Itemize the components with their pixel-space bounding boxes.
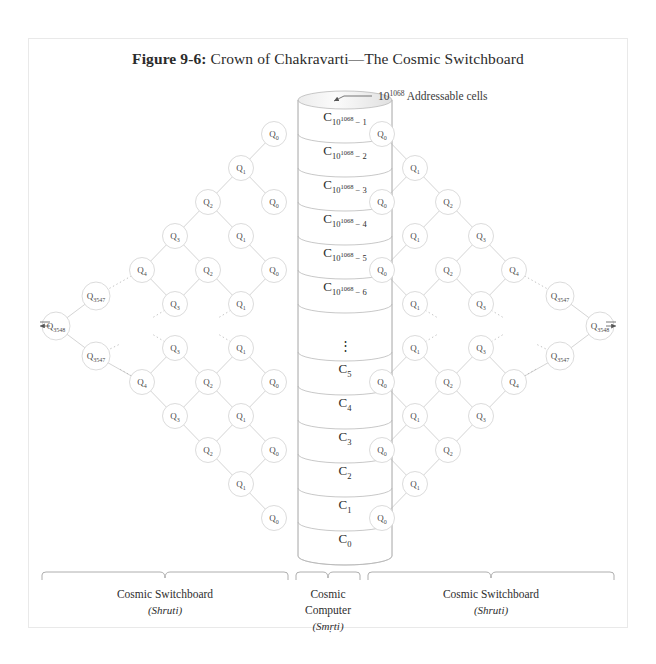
switchboard-node[interactable]: Q1	[229, 156, 254, 181]
switchboard-node[interactable]: Q1	[229, 336, 254, 361]
cylinder-cell-label: C5	[339, 361, 352, 379]
cylinder-cell-divider	[298, 168, 392, 177]
switchboard-node[interactable]: Q3	[469, 224, 494, 249]
switchboard-node[interactable]: Q0	[370, 258, 395, 283]
switchboard-node[interactable]: Q0	[370, 438, 395, 463]
cylinder-cell-label: C1	[339, 497, 352, 515]
switchboard-nodes-right: Q0Q1Q2Q0Q3Q1Q4Q2Q0Q3547Q3Q1Q3548Q3547Q3Q…	[370, 122, 615, 531]
switchboard-node[interactable]: Q3	[163, 336, 188, 361]
section-brace-sublabel: (Shruti)	[148, 604, 183, 617]
switchboard-node[interactable]: Q0	[370, 370, 395, 395]
switchboard-node[interactable]: Q2	[436, 438, 461, 463]
cosmic-switchboard-diagram: C101068 − 1C101068 − 2C101068 − 3C101068…	[0, 0, 656, 664]
section-brace	[42, 572, 288, 580]
cylinder-cell-label: C101068 − 2	[323, 143, 366, 161]
switchboard-node[interactable]: Q1	[403, 472, 428, 497]
section-brace-sublabel: (Shruti)	[474, 604, 509, 617]
cylinder-cell-label: C101068 − 3	[323, 177, 366, 195]
section-brace	[368, 572, 614, 580]
section-brace	[296, 572, 360, 580]
switchboard-edges-left	[56, 134, 274, 518]
cylinder-cell-divider	[298, 236, 392, 245]
cylinder-ellipsis: ⋮	[339, 338, 352, 353]
switchboard-node[interactable]: Q2	[196, 370, 221, 395]
switchboard-nodes-left: Q0Q1Q2Q0Q3Q1Q4Q2Q0Q3547Q3Q1Q3548Q3547Q3Q…	[42, 122, 287, 531]
section-brace-label-line2: Computer	[305, 604, 351, 617]
switchboard-node[interactable]: Q0	[262, 506, 287, 531]
switchboard-node[interactable]: Q0	[370, 190, 395, 215]
cylinder-cell-label: C101068 − 6	[323, 279, 366, 297]
cylinder-cell-label: C0	[339, 531, 352, 549]
switchboard-node[interactable]: Q3	[163, 224, 188, 249]
cylinder-cell-divider	[298, 304, 392, 313]
switchboard-node[interactable]: Q4	[130, 258, 155, 283]
switchboard-node[interactable]: Q4	[502, 370, 527, 395]
switchboard-node[interactable]: Q0	[262, 438, 287, 463]
switchboard-node[interactable]: Q1	[229, 472, 254, 497]
switchboard-node[interactable]: Q0	[370, 122, 395, 147]
section-brace-label: Cosmic	[310, 588, 345, 600]
switchboard-node[interactable]: Q1	[229, 404, 254, 429]
cylinder-cell-label: C4	[339, 395, 353, 413]
switchboard-node[interactable]: Q3547	[546, 342, 574, 370]
switchboard-edges-right	[382, 134, 600, 518]
switchboard-node[interactable]: Q3	[163, 404, 188, 429]
switchboard-continuation-left	[96, 270, 241, 382]
switchboard-node[interactable]: Q3	[469, 404, 494, 429]
switchboard-node[interactable]: Q1	[229, 292, 254, 317]
switchboard-node[interactable]: Q2	[436, 258, 461, 283]
switchboard-node[interactable]: Q4	[502, 258, 527, 283]
switchboard-node[interactable]: Q3	[469, 292, 494, 317]
annotation-label: 101068 Addressable cells	[378, 89, 488, 103]
switchboard-node[interactable]: Q2	[196, 258, 221, 283]
switchboard-node[interactable]: Q1	[403, 404, 428, 429]
switchboard-node[interactable]: Q3	[163, 292, 188, 317]
cylinder-cell-label: C101068 − 4	[323, 211, 367, 229]
section-braces: Cosmic Switchboard(Shruti)CosmicComputer…	[42, 572, 614, 633]
switchboard-node[interactable]: Q1	[229, 224, 254, 249]
switchboard-node[interactable]: Q0	[262, 122, 287, 147]
cylinder-cell-label: C3	[339, 429, 352, 447]
section-brace-label: Cosmic Switchboard	[117, 588, 213, 600]
figure-root: Figure 9-6: Crown of Chakravarti—The Cos…	[0, 0, 656, 664]
cylinder-cell-label: C2	[339, 463, 352, 481]
section-brace-label: Cosmic Switchboard	[443, 588, 539, 600]
cylinder-cell-label: C101068 − 5	[323, 245, 366, 263]
switchboard-node[interactable]: Q0	[262, 190, 287, 215]
cosmic-computer-cylinder: C101068 − 1C101068 − 2C101068 − 3C101068…	[298, 91, 392, 565]
switchboard-node[interactable]: Q3547	[82, 282, 110, 310]
switchboard-node[interactable]: Q3547	[546, 282, 574, 310]
switchboard-node[interactable]: Q2	[436, 190, 461, 215]
cylinder-cell-label: C101068 − 1	[323, 109, 366, 127]
switchboard-node[interactable]: Q0	[262, 258, 287, 283]
section-brace-sublabel: (Smṛti)	[312, 620, 344, 633]
switchboard-node[interactable]: Q1	[403, 224, 428, 249]
switchboard-node[interactable]: Q4	[130, 370, 155, 395]
switchboard-end-arrows	[40, 322, 616, 326]
switchboard-node[interactable]: Q0	[370, 506, 395, 531]
switchboard-node[interactable]: Q1	[403, 156, 428, 181]
switchboard-node[interactable]: Q1	[403, 336, 428, 361]
switchboard-node[interactable]: Q1	[403, 292, 428, 317]
switchboard-node[interactable]: Q2	[196, 438, 221, 463]
switchboard-continuation-right	[415, 270, 560, 382]
switchboard-node[interactable]: Q0	[262, 370, 287, 395]
switchboard-node[interactable]: Q2	[436, 370, 461, 395]
switchboard-node[interactable]: Q3547	[82, 342, 110, 370]
switchboard-node[interactable]: Q2	[196, 190, 221, 215]
switchboard-node[interactable]: Q3	[469, 336, 494, 361]
